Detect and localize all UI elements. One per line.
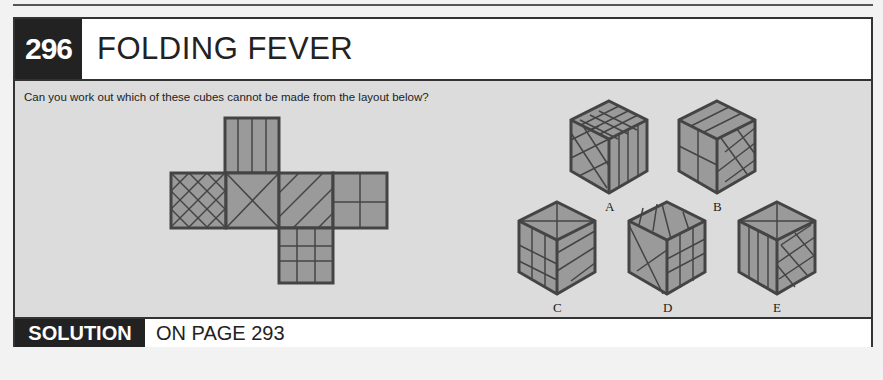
option-label-a: A [605,199,615,214]
cube-option-a[interactable]: A [571,101,647,214]
cube-option-c[interactable]: C [519,202,595,315]
option-label-b: B [713,199,722,214]
cube-net: A B [15,81,871,317]
option-label-e: E [773,300,781,315]
net-face-diagonal-stripes [279,173,333,228]
puzzle-title: FOLDING FEVER [97,19,353,79]
puzzle-frame: 296 FOLDING FEVER Can you work out which… [13,17,873,347]
cube-option-d[interactable]: D [629,202,705,315]
solution-label: SOLUTION [15,319,145,347]
title-bar: 296 FOLDING FEVER [15,19,871,81]
cube-option-e[interactable]: E [739,202,815,315]
net-face-quarters [333,173,387,228]
net-face-cross-hatch [171,173,226,228]
top-rule [13,4,873,6]
option-label-c: C [553,300,562,315]
solution-page-ref: ON PAGE 293 [156,319,285,347]
cube-option-b[interactable]: B [679,101,755,214]
puzzle-panel: Can you work out which of these cubes ca… [15,81,871,317]
net-face-vertical-stripes [225,118,279,173]
option-label-d: D [663,300,672,315]
puzzle-number: 296 [15,19,82,79]
solution-bar: SOLUTION ON PAGE 293 [15,317,871,347]
net-face-grid [279,228,333,283]
net-face-diagonal-x [226,173,279,228]
